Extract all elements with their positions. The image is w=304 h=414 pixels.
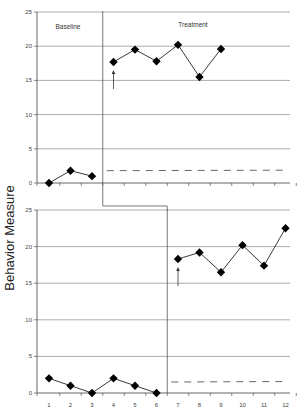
data-point-diamond <box>109 58 117 66</box>
data-point-diamond <box>174 41 182 49</box>
x-tick-label: 10 <box>239 402 246 408</box>
baseline-label: Baseline <box>56 23 81 30</box>
x-tick-label: 8 <box>198 402 202 408</box>
x-tick-label: 7 <box>176 402 180 408</box>
data-point-diamond <box>152 57 160 65</box>
data-point-diamond <box>66 166 74 174</box>
x-tick-label: 12 <box>282 402 289 408</box>
data-point-diamond <box>131 381 139 389</box>
dashed-reference-line <box>171 382 286 383</box>
data-point-diamond <box>174 255 182 263</box>
x-tick-label: 1 <box>47 402 51 408</box>
data-point-diamond <box>45 179 53 187</box>
data-point-diamond <box>131 45 139 53</box>
y-tick-label: 25 <box>25 207 32 213</box>
data-point-diamond <box>152 389 160 397</box>
x-tick-label: 9 <box>219 402 223 408</box>
arrow-head-icon <box>176 267 180 271</box>
x-tick-label: 2 <box>69 402 73 408</box>
series-line <box>178 228 286 272</box>
panel-2: 0510152025123456789101112 <box>25 207 296 408</box>
dashed-reference-line <box>107 170 286 171</box>
data-point-diamond <box>66 381 74 389</box>
y-tick-label: 25 <box>25 9 32 15</box>
data-point-diamond <box>88 389 96 397</box>
treatment-label: Treatment <box>178 21 208 28</box>
y-tick-label: 20 <box>25 244 32 250</box>
y-tick-label: 5 <box>29 353 33 359</box>
series-line <box>114 45 222 77</box>
arrow-head-icon <box>112 70 116 74</box>
y-tick-label: 15 <box>25 280 32 286</box>
y-tick-label: 20 <box>25 43 32 49</box>
panel-1: 0510152025BaselineTreatment <box>25 9 296 187</box>
y-tick-label: 0 <box>29 180 33 186</box>
x-tick-label: 6 <box>155 402 159 408</box>
x-tick-label: 5 <box>133 402 137 408</box>
data-point-diamond <box>45 374 53 382</box>
series-line <box>49 378 157 393</box>
y-axis-label: Behavior Measure <box>2 185 17 291</box>
data-point-diamond <box>88 172 96 180</box>
data-point-diamond <box>281 224 289 232</box>
x-tick-label: 3 <box>90 402 94 408</box>
y-tick-label: 15 <box>25 77 32 83</box>
y-tick-label: 10 <box>25 112 32 118</box>
y-tick-label: 0 <box>29 390 33 396</box>
multiple-baseline-chart: 0510152025BaselineTreatment0510152025123… <box>0 0 304 414</box>
data-point-diamond <box>195 73 203 81</box>
x-tick-label: 11 <box>261 402 268 408</box>
data-point-diamond <box>109 374 117 382</box>
y-tick-label: 5 <box>29 146 33 152</box>
phase-step-connector <box>103 183 168 210</box>
y-tick-label: 10 <box>25 317 32 323</box>
x-tick-label: 4 <box>112 402 116 408</box>
